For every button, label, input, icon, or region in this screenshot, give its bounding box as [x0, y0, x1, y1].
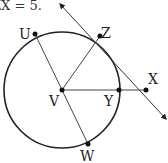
label-w: W [80, 148, 95, 163]
label-u: U [19, 26, 31, 42]
segment-vz [62, 36, 100, 90]
label-y: Y [103, 93, 114, 109]
segment-vu [35, 34, 62, 90]
label-v: V [48, 93, 60, 109]
point-u [33, 32, 38, 37]
point-w [86, 142, 91, 147]
geometry-diagram: ZX = 5. U Z V Y X W [0, 0, 168, 163]
point-v [60, 88, 65, 93]
point-y [117, 88, 122, 93]
caption-text: ZX = 5. [0, 0, 42, 13]
label-x: X [148, 71, 158, 87]
label-z: Z [101, 25, 111, 41]
segment-vw [62, 90, 88, 144]
point-x [144, 88, 149, 93]
